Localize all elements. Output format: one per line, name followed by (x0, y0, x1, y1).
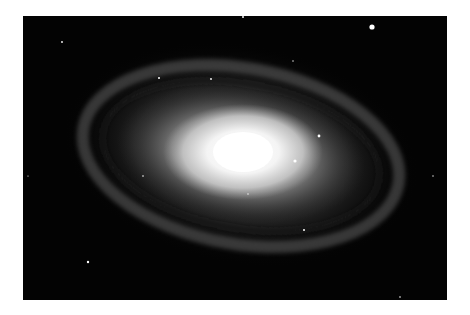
star (61, 41, 63, 43)
star (27, 175, 28, 176)
star (399, 296, 401, 298)
star (210, 78, 212, 80)
star (293, 159, 296, 162)
star (432, 175, 433, 176)
star (318, 135, 321, 138)
star (369, 24, 374, 29)
star (87, 261, 89, 263)
star (303, 229, 305, 231)
galaxy-image (23, 16, 447, 300)
star (292, 60, 293, 61)
galaxy-illustration (23, 16, 447, 300)
star (158, 77, 160, 79)
star (247, 193, 248, 194)
star (242, 16, 244, 18)
star (142, 175, 144, 177)
galaxy-nucleus (213, 132, 273, 172)
